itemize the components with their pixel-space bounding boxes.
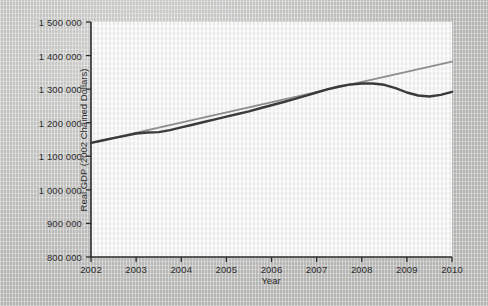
y-axis-tick-label: 1 200 000	[0, 117, 82, 128]
x-axis-title: Year	[261, 275, 280, 286]
series-line-1	[91, 83, 452, 142]
x-axis-tick-label: 2004	[170, 264, 192, 275]
x-axis-tick-label: 2003	[125, 264, 147, 275]
axis-lines	[91, 22, 452, 257]
x-axis-tick-label: 2010	[441, 264, 463, 275]
data-series-group	[91, 62, 452, 143]
x-axis-tick-label: 2008	[351, 264, 373, 275]
y-axis-tick-label: 1 400 000	[0, 50, 82, 61]
series-line-0	[91, 62, 452, 143]
gdp-trend-chart-figure: 800 000900 0001 000 0001 100 0001 200 00…	[0, 0, 488, 306]
x-axis-tick-label: 2009	[396, 264, 418, 275]
x-axis-tick-label: 2007	[306, 264, 328, 275]
y-axis-tick-label: 1 000 000	[0, 184, 82, 195]
y-axis-tick-label: 900 000	[0, 218, 82, 229]
axes-group	[86, 22, 452, 262]
x-axis-tick-label: 2006	[261, 264, 283, 275]
y-axis-tick-label: 1 500 000	[0, 17, 82, 28]
y-axis-title: Real GDP (2002 Chained Dollars)	[78, 69, 89, 212]
x-axis-tick-label: 2002	[80, 264, 102, 275]
y-axis-tick-label: 1 300 000	[0, 84, 82, 95]
x-axis-tick-label: 2005	[216, 264, 238, 275]
y-axis-tick-label: 1 100 000	[0, 151, 82, 162]
y-axis-tick-label: 800 000	[0, 252, 82, 263]
